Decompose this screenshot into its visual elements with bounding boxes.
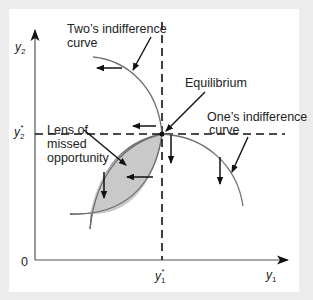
y-star-label: y2*	[13, 123, 25, 141]
ones-curve-pointer	[232, 137, 248, 172]
twos-curve-label-line2: curve	[67, 36, 98, 50]
equilibrium-label: Equilibrium	[185, 76, 247, 90]
y-axis-label: y2	[14, 40, 26, 56]
ones-curve-label-line1: One’s indifference	[207, 110, 307, 124]
origin-label: 0	[21, 255, 28, 269]
ones-indifference-curve	[162, 134, 243, 206]
equilibrium-pointer	[166, 92, 205, 131]
lens-label-line3: opportunity	[47, 151, 110, 165]
ones-curve-label-line2: curve	[209, 123, 240, 137]
lens-label-line1: Lens of	[47, 123, 89, 137]
twos-curve-label-line1: Two’s indifference	[67, 22, 167, 36]
lens-label-line2: missed	[47, 137, 87, 151]
indifference-curve-diagram: Two’s indifference curve Equilibrium One…	[0, 0, 313, 300]
x-axis-label: y1	[265, 268, 277, 284]
equilibrium-point	[160, 132, 165, 137]
x-star-label: y1*	[154, 267, 166, 285]
twos-curve-pointer	[133, 37, 151, 70]
